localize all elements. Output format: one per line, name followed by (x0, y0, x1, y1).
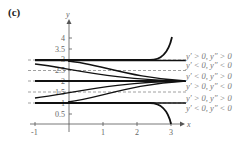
svg-text:1: 1 (101, 128, 105, 137)
x-tick-labels: -1 1 2 3 (31, 128, 173, 137)
x-axis-arrow-icon (180, 122, 185, 127)
x-axis-label: x (186, 120, 191, 129)
y-axis-arrow-icon (67, 19, 72, 24)
svg-text:2: 2 (135, 128, 139, 137)
svg-text:4: 4 (61, 34, 65, 43)
region-label: y′ < 0, y″ < 0 (186, 104, 232, 113)
region-label: y′ > 0, y″ < 0 (186, 82, 232, 91)
svg-text:3.5: 3.5 (55, 45, 65, 54)
y-axis-label: y (65, 10, 70, 19)
y-tick-labels: 4 3.5 3 2.5 2 1.5 1 0.5 (55, 34, 65, 119)
svg-text:1.5: 1.5 (55, 88, 65, 97)
region-label: y′ < 0, y″ > 0 (186, 72, 232, 81)
region-label: y′ > 0, y″ > 0 (186, 94, 232, 103)
svg-text:0.5: 0.5 (55, 110, 65, 119)
region-label: y′ < 0, y″ < 0 (186, 61, 232, 70)
svg-text:3: 3 (169, 128, 173, 137)
svg-text:-1: -1 (31, 128, 38, 137)
